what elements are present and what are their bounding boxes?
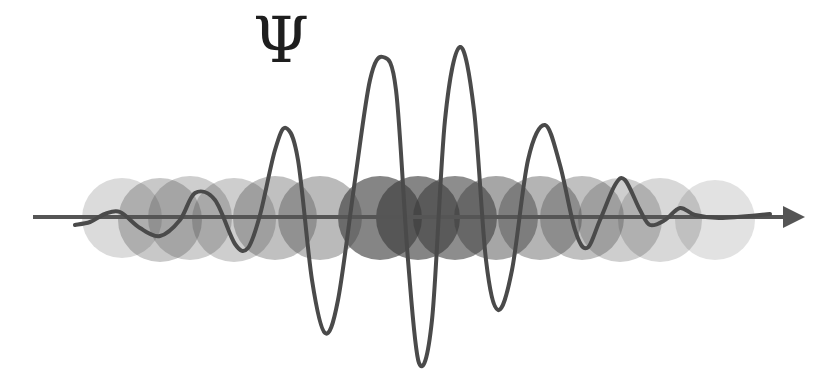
probability-circle xyxy=(675,180,755,260)
wavepacket-diagram: Ψ xyxy=(0,0,840,380)
arrow-head-icon xyxy=(783,206,805,228)
wavepacket-svg xyxy=(0,0,840,380)
